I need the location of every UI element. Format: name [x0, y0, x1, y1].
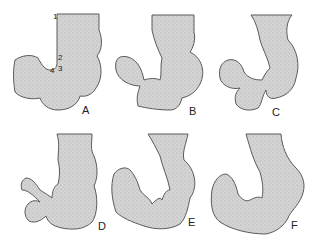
marker-4: 4 — [50, 66, 55, 75]
panel-label-f: F — [291, 219, 298, 231]
organ-outline-d — [21, 134, 97, 229]
stomach-shapes-figure: 1 2 3 4 A B C D E F — [0, 0, 319, 244]
panel-label-b: B — [189, 105, 196, 117]
panel-label-d: D — [98, 220, 106, 232]
organ-outline-e — [112, 134, 195, 229]
marker-1: 1 — [53, 12, 58, 21]
panel-label-e: E — [188, 216, 195, 228]
marker-2: 2 — [58, 53, 63, 62]
panel-f: F — [211, 134, 304, 234]
panel-e: E — [112, 134, 196, 229]
panel-c: C — [219, 15, 297, 118]
panel-label-c: C — [272, 106, 280, 118]
organ-outline-c — [219, 15, 297, 110]
panel-b: B — [116, 15, 203, 117]
panel-label-a: A — [82, 104, 90, 116]
organ-outline-b — [116, 15, 203, 110]
organ-outline-a — [14, 14, 102, 110]
marker-3: 3 — [58, 64, 63, 73]
panel-d: D — [21, 134, 106, 232]
panel-a: 1 2 3 4 A — [14, 12, 102, 116]
